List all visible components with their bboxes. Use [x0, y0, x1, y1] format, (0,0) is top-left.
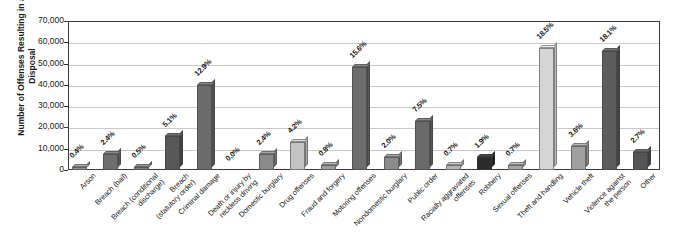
bar-side-face — [617, 45, 620, 167]
bar-side-face — [180, 130, 183, 167]
bar-group[interactable]: 18.5% — [535, 21, 566, 170]
y-tick-label: 40,000 — [2, 80, 64, 89]
bar-group[interactable]: 4.2% — [286, 21, 317, 170]
bar-value-label: 0.0% — [223, 145, 241, 163]
bar[interactable] — [103, 154, 118, 170]
bar-value-label: 0.4% — [68, 142, 86, 160]
bar-group[interactable]: 3.6% — [567, 21, 598, 170]
bar-value-label: 5.1% — [161, 111, 179, 129]
bar[interactable] — [508, 165, 523, 170]
bar[interactable] — [539, 48, 554, 170]
bar-value-label: 0.7% — [504, 141, 522, 159]
bar-side-face — [367, 61, 370, 167]
bar[interactable] — [633, 152, 648, 170]
bar[interactable] — [571, 146, 586, 170]
bar-group[interactable]: 2.7% — [629, 21, 660, 170]
y-tick-label: 50,000 — [2, 59, 64, 68]
bar-group[interactable]: 0.0% — [224, 21, 255, 170]
bar-value-label: 3.6% — [566, 121, 584, 139]
bar-value-label: 2.7% — [628, 127, 646, 145]
bar[interactable] — [259, 154, 274, 170]
bar-group[interactable]: 0.7% — [504, 21, 535, 170]
bar[interactable] — [72, 167, 87, 170]
bar[interactable] — [352, 67, 367, 170]
bar-value-label: 4.2% — [286, 117, 304, 135]
y-axis-tick-labels: 70,00060,00050,00040,00030,00020,00010,0… — [0, 0, 64, 172]
bar-group[interactable]: 0.7% — [442, 21, 473, 170]
bar-value-label: 2.0% — [379, 132, 397, 150]
bar-value-label: 1.9% — [473, 133, 491, 151]
bar[interactable] — [165, 136, 180, 170]
bar[interactable] — [290, 142, 305, 170]
bar-group[interactable]: 0.4% — [68, 21, 99, 170]
bar-group[interactable]: 0.5% — [130, 21, 161, 170]
bar-value-label: 0.5% — [130, 142, 148, 160]
bar[interactable] — [477, 157, 492, 170]
bar[interactable] — [134, 167, 149, 170]
bar-value-label: 0.7% — [442, 141, 460, 159]
bar[interactable] — [602, 51, 617, 170]
y-tick-label: 30,000 — [2, 101, 64, 110]
y-tick-label: 0 — [2, 165, 64, 174]
bar[interactable] — [415, 121, 430, 170]
bar-value-label: 15.6% — [348, 39, 369, 60]
bar-group[interactable]: 2.4% — [99, 21, 130, 170]
bar-value-label: 18.1% — [597, 23, 618, 44]
bar-group[interactable]: 0.8% — [317, 21, 348, 170]
bar-group[interactable]: 2.4% — [255, 21, 286, 170]
bar-group[interactable]: 1.9% — [473, 21, 504, 170]
bar-value-label: 0.8% — [317, 140, 335, 158]
bar-value-label: 2.4% — [255, 129, 273, 147]
bar[interactable] — [384, 157, 399, 170]
bar-group[interactable]: 15.6% — [348, 21, 379, 170]
bar-side-face — [554, 42, 557, 167]
bars-layer: 0.4%2.4%0.5%5.1%12.9%0.0%2.4%4.2%0.8%15.… — [68, 21, 660, 170]
bar-value-label: 2.4% — [99, 129, 117, 147]
bar-value-label: 7.5% — [410, 96, 428, 114]
bar-side-face — [430, 115, 433, 167]
bar-group[interactable]: 7.5% — [411, 21, 442, 170]
bar-group[interactable]: 18.1% — [598, 21, 629, 170]
bar-value-label: 18.5% — [535, 20, 556, 41]
y-tick-label: 60,000 — [2, 37, 64, 46]
bar-group[interactable]: 5.1% — [161, 21, 192, 170]
bar-value-label: 12.9% — [192, 57, 213, 78]
bar[interactable] — [197, 85, 212, 170]
y-tick-mark — [64, 170, 68, 171]
bar-group[interactable]: 12.9% — [193, 21, 224, 170]
y-tick-label: 10,000 — [2, 144, 64, 153]
y-tick-label: 20,000 — [2, 122, 64, 131]
bar-side-face — [212, 79, 215, 167]
bar-group[interactable]: 2.0% — [380, 21, 411, 170]
bar-chart: Number of Offenses Resulting in a Dispos… — [0, 0, 676, 250]
bar[interactable] — [321, 165, 336, 170]
bar[interactable] — [446, 165, 461, 170]
y-tick-label: 70,000 — [2, 16, 64, 25]
x-axis-category-labels: ArsonBreach (bail)Breach (conditionaldis… — [68, 172, 660, 250]
